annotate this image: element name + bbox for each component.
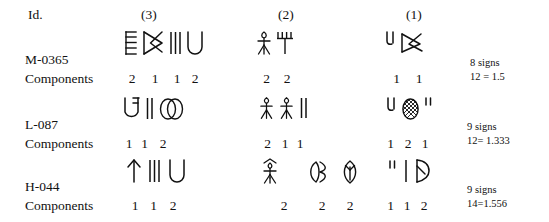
row-1-notes: 8 signs 12 = 1.5 (470, 56, 505, 84)
row-3-notes: 9 signs 14=1.556 (467, 183, 507, 211)
row-2-col1-components: 1 2 1 (382, 137, 433, 151)
row-1-col1-components: 1 1 (384, 72, 429, 86)
component-value: 2 (262, 199, 306, 213)
component-value: 1 (382, 199, 399, 213)
component-value: 1 (277, 137, 293, 151)
row-2-notes: 9 signs 12= 1.333 (467, 120, 510, 148)
component-value: 1 (384, 72, 409, 86)
ladder-icon (124, 31, 139, 55)
indus-script-table: Id. (3) (2) (1) M-0365 Components (0, 0, 549, 222)
components-label-row-1: Components (25, 72, 93, 86)
row-1-col3-components: 2 1 1 2 (122, 72, 204, 86)
row-1-col3-glyphs (124, 31, 204, 55)
standing-figure-icon (279, 96, 294, 120)
row-2-col3-components: 1 1 2 (122, 137, 173, 151)
component-value: 2 (258, 137, 277, 151)
hook-stroke-icon (384, 31, 397, 55)
component-value: 1 (399, 199, 415, 213)
component-value: 2 (277, 72, 297, 86)
component-value: 1 (417, 137, 433, 151)
row-2-col3-glyphs (122, 96, 185, 120)
row-2-ratio: 12= 1.333 (467, 134, 510, 148)
crowned-figure-icon (262, 158, 278, 184)
row-1-ratio: 12 = 1.5 (470, 70, 505, 84)
row-2-col2-components: 2 1 1 (258, 137, 307, 151)
component-value: 1 (409, 72, 429, 86)
hatched-oval-icon (401, 96, 420, 120)
row-3-signs-count: 9 signs (467, 183, 507, 197)
row-3-ratio: 14=1.556 (467, 197, 507, 211)
component-value: 1 (136, 137, 153, 151)
component-value: 2 (153, 137, 173, 151)
two-strokes-icon (299, 96, 309, 120)
u-cup-icon (168, 159, 186, 183)
row-1-col1-glyphs (384, 31, 426, 55)
header-id-label: Id. (28, 8, 43, 22)
u-cup-icon (186, 31, 204, 55)
component-value: 1 (126, 199, 144, 213)
double-quote-icon (387, 159, 398, 183)
rake-comb-icon (276, 31, 295, 55)
row-3-col3-components: 1 1 2 (126, 199, 183, 213)
header-col1-label: (1) (406, 8, 422, 22)
row-3-col1-components: 1 1 2 (382, 199, 433, 213)
row-1-signs-count: 8 signs (470, 56, 505, 70)
double-leaf-icon (306, 160, 334, 184)
header-col2-label: (2) (278, 8, 294, 22)
arrow-up-icon (126, 159, 142, 183)
component-value: 2 (122, 72, 142, 86)
components-label-row-3: Components (25, 199, 93, 213)
row-2-col1-glyphs (385, 96, 434, 120)
standing-figure-icon (259, 96, 274, 120)
double-quote-icon (423, 96, 434, 120)
row-id-h-044: H-044 (25, 180, 60, 194)
single-stroke-icon (403, 159, 409, 183)
component-value: 2 (163, 199, 183, 213)
row-1-col2-glyphs (256, 31, 295, 55)
component-value: 2 (399, 137, 417, 151)
component-value: 2 (415, 199, 433, 213)
bowtie-x-icon (400, 31, 426, 55)
component-value: 1 (144, 199, 163, 213)
row-3-col1-glyphs (387, 159, 431, 183)
component-value: 1 (382, 137, 399, 151)
two-strokes-icon (145, 96, 155, 120)
row-2-signs-count: 9 signs (467, 120, 510, 134)
component-value: 1 (293, 137, 307, 151)
component-value: 2 (186, 72, 204, 86)
three-strokes-icon (169, 31, 183, 55)
hook-stroke-icon (385, 96, 398, 120)
flag-loop-icon (414, 159, 431, 183)
row-3-col3-glyphs (126, 159, 186, 183)
row-3-col2-glyphs (262, 158, 278, 184)
row-3-col2-components: 2 2 2 (262, 199, 362, 213)
component-value: 2 (306, 199, 338, 213)
component-value: 2 (338, 199, 362, 213)
u-with-flag-icon (122, 96, 142, 120)
component-value: 1 (122, 137, 136, 151)
three-strokes-icon (148, 159, 162, 183)
row-id-m-0365: M-0365 (25, 53, 69, 67)
double-oval-icon (158, 96, 185, 120)
component-value: 1 (142, 72, 168, 86)
header-col3-label: (3) (141, 8, 157, 22)
components-label-row-2: Components (25, 137, 93, 151)
component-value: 1 (168, 72, 186, 86)
row-id-l-087: L-087 (25, 118, 58, 132)
row-1-col2-components: 2 2 (256, 72, 297, 86)
row-2-col2-glyphs (259, 96, 309, 120)
leaf-with-stem-icon (340, 160, 360, 184)
standing-figure-icon (256, 31, 272, 55)
hourglass-x-icon (142, 31, 166, 55)
row-3-col2-glyphs-b (306, 160, 360, 184)
component-value: 2 (256, 72, 277, 86)
